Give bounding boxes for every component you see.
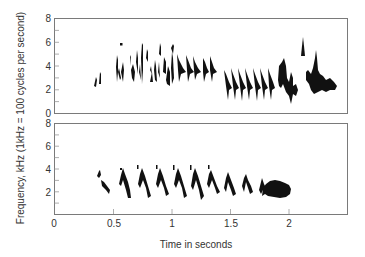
y-tick-label: 4 xyxy=(45,164,51,175)
bottom-spectrogram-panel: 8 6 4 2 0 0.5 1 1.5 2 xyxy=(45,118,347,229)
x-tick-label: 0 xyxy=(51,218,57,229)
top-spectrogram-panel: 8 6 4 2 0 xyxy=(45,13,347,119)
x-ticks xyxy=(114,209,290,214)
x-tick-labels: 0 0.5 1 1.5 2 xyxy=(51,218,292,229)
bottom-y-tick-labels: 8 6 4 2 xyxy=(45,118,51,198)
x-tick-label: 1 xyxy=(169,218,175,229)
y-tick-label: 4 xyxy=(45,61,51,72)
x-tick-label: 0.5 xyxy=(107,218,121,229)
x-tick-label: 1.5 xyxy=(224,218,238,229)
bottom-y-ticks xyxy=(55,135,60,203)
x-axis-title: Time in seconds xyxy=(160,239,232,250)
bottom-spectrogram-notes xyxy=(97,165,291,200)
y-tick-label: 6 xyxy=(45,141,51,152)
top-y-tick-labels: 8 6 4 2 0 xyxy=(45,13,51,119)
top-panel-frame xyxy=(55,19,348,114)
y-tick-label: 8 xyxy=(45,13,51,24)
top-y-ticks xyxy=(55,30,60,101)
bottom-panel-frame xyxy=(55,124,348,215)
y-tick-label: 2 xyxy=(45,84,51,95)
y-tick-label: 8 xyxy=(45,118,51,129)
y-tick-label: 6 xyxy=(45,37,51,48)
top-spectrogram-notes xyxy=(94,37,337,104)
x-tick-label: 2 xyxy=(286,218,292,229)
y-tick-label: 2 xyxy=(45,187,51,198)
spectrogram-figure: Frequency, kHz (1kHz = 100 cycles per se… xyxy=(0,0,365,257)
y-axis-title: Frequency, kHz (1kHz = 100 cycles per se… xyxy=(15,12,26,224)
